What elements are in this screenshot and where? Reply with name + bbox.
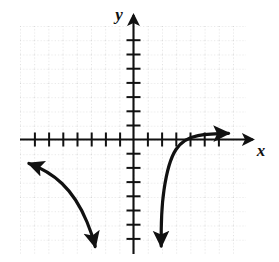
cartesian-graph-figure: y x bbox=[0, 0, 279, 262]
x-axis-label: x bbox=[256, 141, 266, 160]
graph-screenshot: y x bbox=[0, 0, 279, 262]
y-axis-label: y bbox=[113, 5, 123, 24]
